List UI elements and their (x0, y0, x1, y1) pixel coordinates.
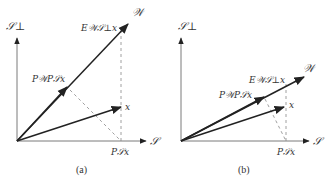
x-vector (181, 107, 284, 141)
x-label: x (289, 100, 294, 110)
panel-a: 𝒮⊥ 𝒲 𝒮 x P𝒮x P𝒲P𝒮x E𝒲𝒮⊥x (a) (6, 6, 162, 176)
s-label: 𝒮 (150, 135, 162, 148)
w-label: 𝒲 (303, 62, 317, 75)
x-label: x (125, 102, 130, 112)
ps-x-label: P𝒮x (276, 147, 295, 157)
oblique-dashed-line (265, 99, 286, 141)
pw-ps-x-label: P𝒲P𝒮x (218, 90, 252, 100)
e-ws-perp-x-label: E𝒲𝒮⊥x (248, 75, 285, 85)
e-ws-perp-x-label: E𝒲𝒮⊥x (80, 23, 117, 33)
w-label: 𝒲 (132, 6, 146, 19)
pw-ps-x-vector (181, 97, 264, 141)
panel-b: 𝒮⊥ 𝒲 𝒮 x P𝒮x P𝒲P𝒮x E𝒲𝒮⊥x (b) (178, 20, 325, 176)
panel-b-caption: (b) (238, 164, 250, 176)
ps-x-label: P𝒮x (110, 147, 129, 157)
projection-diagram: 𝒮⊥ 𝒲 𝒮 x P𝒮x P𝒲P𝒮x E𝒲𝒮⊥x (a) 𝒮⊥ 𝒲 𝒮 x P𝒮… (0, 0, 330, 181)
s-label: 𝒮 (313, 135, 325, 148)
panel-a-caption: (a) (76, 164, 87, 176)
pw-ps-x-label: P𝒲P𝒮x (31, 74, 65, 84)
s-perp-label: 𝒮⊥ (6, 20, 25, 33)
s-perp-label: 𝒮⊥ (178, 20, 197, 33)
